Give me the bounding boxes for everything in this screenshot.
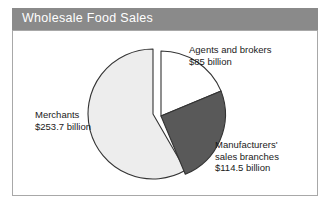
callout-manufacturers-sales-branches: Manufacturers' sales branches $114.5 bil… xyxy=(215,139,279,174)
callout-agents-name: Agents and brokers xyxy=(189,44,271,56)
chart-figure: Wholesale Food Sales Agents and brokers … xyxy=(12,8,318,196)
callout-merchants-value: $253.7 billion xyxy=(35,121,91,133)
callout-manufacturers-name-line1: Manufacturers' xyxy=(215,139,279,151)
page-title: Wholesale Food Sales xyxy=(22,11,153,25)
callout-agents-value: $85 billion xyxy=(189,56,271,68)
callout-manufacturers-value: $114.5 billion xyxy=(215,162,279,174)
callout-merchants: Merchants $253.7 billion xyxy=(35,109,91,132)
callout-manufacturers-name-line2: sales branches xyxy=(215,151,279,163)
callout-agents-and-brokers: Agents and brokers $85 billion xyxy=(189,44,271,67)
chart-plot-area: Agents and brokers $85 billion Merchants… xyxy=(12,30,318,196)
callout-merchants-name: Merchants xyxy=(35,109,91,121)
chart-title-bar: Wholesale Food Sales xyxy=(12,8,318,30)
